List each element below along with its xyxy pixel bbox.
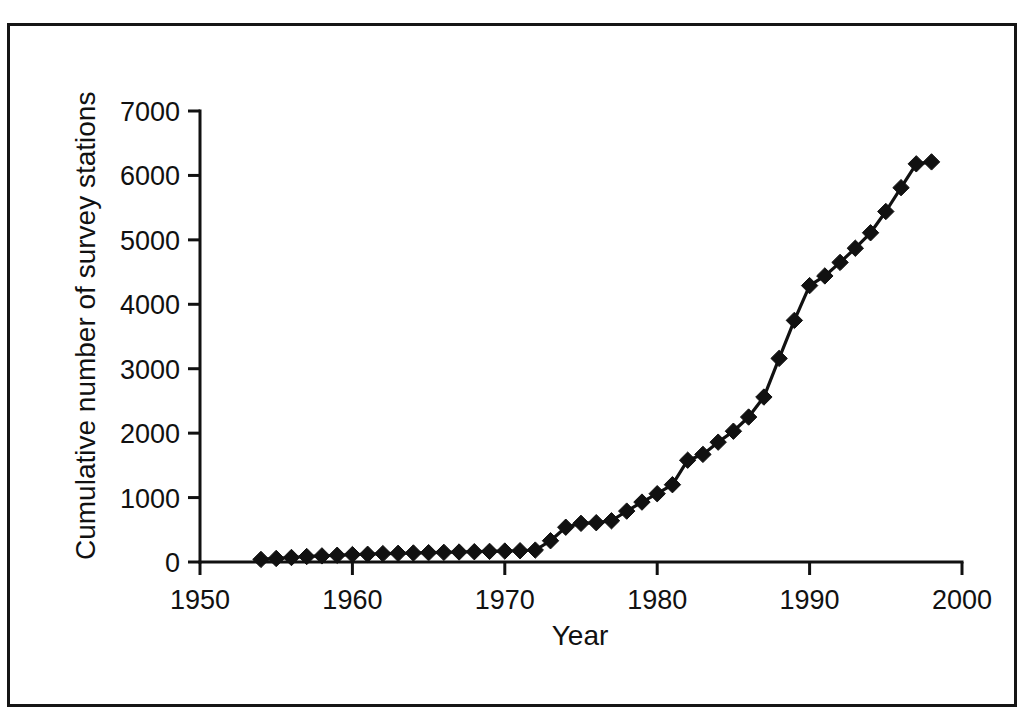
x-tick-label-2000: 2000	[932, 585, 992, 615]
data-point-marker	[771, 350, 787, 366]
y-axis-title: Cumulative number of survey stations	[70, 92, 101, 560]
x-axis-group: 195019601970198019902000 Year	[170, 562, 992, 651]
data-point-marker	[588, 514, 604, 530]
y-tick-label-5000: 5000	[120, 226, 180, 256]
y-tick-label-4000: 4000	[120, 290, 180, 320]
data-point-marker	[451, 544, 467, 560]
data-point-marker	[268, 550, 284, 566]
data-point-marker	[375, 545, 391, 561]
data-point-marker	[344, 546, 360, 562]
data-point-marker	[481, 543, 497, 559]
x-axis-ticks	[200, 562, 962, 575]
x-tick-label-1970: 1970	[475, 585, 535, 615]
x-tick-label-1960: 1960	[322, 585, 382, 615]
data-point-marker	[603, 513, 619, 529]
data-point-marker	[893, 179, 909, 195]
series-markers-cumulative-stations	[253, 154, 940, 568]
data-point-marker	[527, 542, 543, 558]
figure-caption	[7, 714, 1017, 724]
line-chart: 01000200030004000500060007000 Cumulative…	[0, 0, 1036, 724]
data-point-marker	[405, 545, 421, 561]
data-point-marker	[390, 545, 406, 561]
data-point-marker	[466, 543, 482, 559]
data-point-marker	[512, 543, 528, 559]
y-tick-label-7000: 7000	[120, 97, 180, 127]
data-point-marker	[664, 476, 680, 492]
x-axis-title: Year	[552, 620, 609, 651]
data-point-marker	[573, 515, 589, 531]
data-point-marker	[634, 494, 650, 510]
series-line-cumulative-stations	[261, 162, 932, 560]
data-point-marker	[801, 277, 817, 293]
data-point-marker	[420, 544, 436, 560]
data-point-marker	[253, 551, 269, 567]
y-axis-group: 01000200030004000500060007000 Cumulative…	[70, 92, 200, 578]
y-tick-label-6000: 6000	[120, 161, 180, 191]
x-tick-label-1950: 1950	[170, 585, 230, 615]
y-tick-label-1000: 1000	[120, 484, 180, 514]
data-point-marker	[497, 543, 513, 559]
x-tick-label-1990: 1990	[780, 585, 840, 615]
y-axis-tick-labels: 01000200030004000500060007000	[120, 97, 180, 578]
figure-root: 01000200030004000500060007000 Cumulative…	[0, 0, 1036, 724]
data-point-marker	[619, 503, 635, 519]
data-point-marker	[679, 452, 695, 468]
data-point-marker	[923, 154, 939, 170]
series-group	[253, 154, 940, 568]
data-point-marker	[649, 486, 665, 502]
data-point-marker	[359, 546, 375, 562]
data-point-marker	[908, 156, 924, 172]
data-point-marker	[786, 312, 802, 328]
y-axis-ticks	[188, 111, 200, 562]
y-tick-label-3000: 3000	[120, 355, 180, 385]
x-tick-label-1980: 1980	[627, 585, 687, 615]
x-axis-tick-labels: 195019601970198019902000	[170, 585, 992, 615]
data-point-marker	[436, 544, 452, 560]
y-tick-label-0: 0	[165, 548, 180, 578]
y-tick-label-2000: 2000	[120, 419, 180, 449]
